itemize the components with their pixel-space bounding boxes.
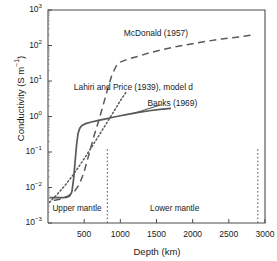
x-tick-label: 2500 xyxy=(209,229,249,239)
x-tick-label: 2000 xyxy=(173,229,213,239)
x-tick-label: 500 xyxy=(64,229,104,239)
y-tick-label: 10−3 xyxy=(16,217,42,227)
region-label-lower-mantle: Lower mantle xyxy=(150,204,199,213)
series-label: McDonald (1957) xyxy=(124,28,188,38)
series-curve xyxy=(49,108,171,197)
x-axis-label: Depth (km) xyxy=(48,246,266,257)
y-tick-label: 102 xyxy=(16,40,42,50)
y-tick-label: 10−1 xyxy=(16,146,42,156)
x-tick-label: 1000 xyxy=(100,229,140,239)
series-curve xyxy=(49,91,126,202)
y-tick-label: 10−2 xyxy=(16,182,42,192)
y-tick-label: 103 xyxy=(16,4,42,14)
series-label: Banks (1969) xyxy=(147,98,197,108)
y-axis-label: Conductivity (S m−1) xyxy=(15,39,26,159)
x-tick-label: 1500 xyxy=(137,229,177,239)
plot-frame xyxy=(48,10,265,223)
y-tick-label: 101 xyxy=(16,75,42,85)
y-tick-label: 100 xyxy=(16,111,42,121)
x-tick-label: 3000 xyxy=(245,229,277,239)
series-curve xyxy=(54,35,254,201)
conductivity-depth-chart: Conductivity (S m−1) Depth (km) 10−310−2… xyxy=(0,0,277,261)
series-label: Lahiri and Price (1939), model d xyxy=(74,82,193,92)
region-label-upper-mantle: Upper mantle xyxy=(52,204,101,213)
